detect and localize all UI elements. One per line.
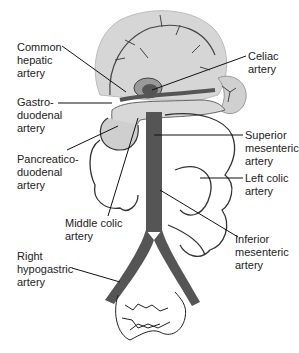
label-pancreaticoduodenal-artery: Pancreatico- duodenal artery [17, 153, 79, 192]
label-left-colic-artery: Left colic artery [245, 172, 288, 198]
label-right-hypogastric-artery: Right hypogastric artery [17, 250, 73, 289]
label-superior-mesenteric-artery: Superior mesenteric artery [245, 129, 299, 168]
label-middle-colic-artery: Middle colic artery [65, 217, 122, 243]
label-gastroduodenal-artery: Gastro- duodenal artery [17, 96, 62, 135]
label-celiac-artery: Celiac artery [248, 50, 279, 76]
label-common-hepatic-artery: Common hepatic artery [17, 41, 62, 80]
pancreas-duodenum [100, 100, 225, 150]
rectal-plexus [116, 292, 186, 340]
label-inferior-mesenteric-artery: Inferior mesenteric artery [235, 233, 289, 272]
